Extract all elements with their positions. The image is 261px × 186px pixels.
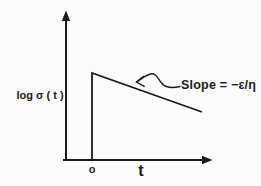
origin-label: o [89, 163, 96, 175]
y-axis-label: log σ ( t ) [16, 89, 64, 101]
relaxation-plot: log σ ( t ) o t Slope = −ε/η [0, 0, 261, 186]
x-axis-label: t [138, 162, 144, 179]
y-axis-arrow-icon [62, 11, 70, 22]
slope-annotation: Slope = −ε/η [181, 78, 256, 92]
figure-canvas: log σ ( t ) o t Slope = −ε/η [0, 0, 261, 186]
x-axis-arrow-icon [202, 156, 213, 164]
